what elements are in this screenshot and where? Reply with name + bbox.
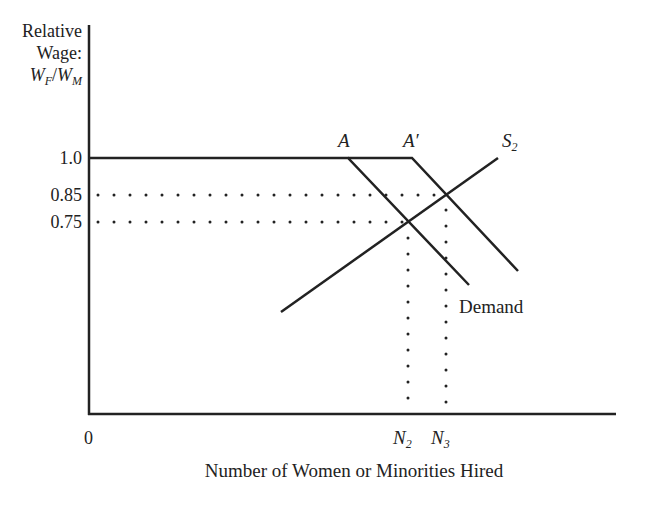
y-axis-label: Relative Wage: WF/WM [22, 20, 82, 92]
x-mark-n2: N2 [393, 428, 412, 454]
x-origin-label: 0 [84, 428, 93, 448]
label-a-prime: A′ [403, 131, 419, 151]
y-axis-label-line1: Relative [22, 20, 82, 42]
x-axis-title: Number of Women or Minorities Hired [0, 460, 650, 482]
y-tick-0-85: 0.85 [51, 186, 83, 204]
demand-curve-a-prime [348, 158, 518, 271]
label-demand: Demand [459, 297, 523, 317]
supply-curve-s2 [281, 158, 498, 312]
x-mark-n3: N3 [431, 428, 450, 454]
diagram-canvas [0, 0, 650, 506]
y-axis-label-ratio: WF/WM [22, 64, 82, 92]
label-s2: S2 [502, 131, 518, 157]
y-tick-0-75: 0.75 [51, 213, 83, 231]
y-tick-1-0: 1.0 [60, 149, 83, 167]
y-axis-label-line2: Wage: [22, 42, 82, 64]
label-a: A [338, 131, 350, 151]
